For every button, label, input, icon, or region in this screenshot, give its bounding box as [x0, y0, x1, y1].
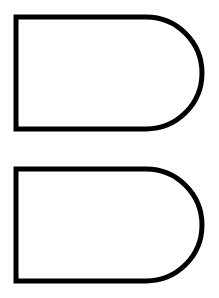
shapes-svg	[0, 0, 219, 298]
drawing-canvas	[0, 0, 219, 298]
canvas-background	[0, 0, 219, 298]
